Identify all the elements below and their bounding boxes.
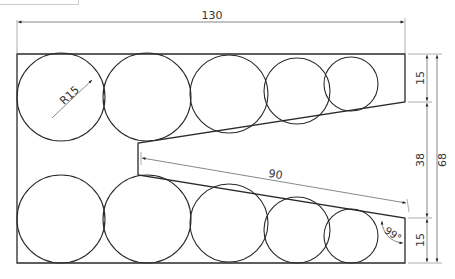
hole-circle: [324, 57, 378, 111]
radius-label: R15: [57, 83, 82, 107]
dimension-90-label: 90: [268, 167, 284, 182]
technical-drawing: 130 15 38 15 68 90 R15 99°: [0, 0, 455, 279]
hole-circle: [190, 184, 268, 262]
hole-circle: [264, 197, 330, 263]
dimension-bottom-15-label: 15: [414, 233, 427, 247]
hole-circle: [324, 209, 378, 263]
hole-circle: [103, 175, 191, 263]
part-outline: [17, 54, 405, 263]
hole-circle: [103, 53, 191, 141]
angle-label: 99°: [383, 225, 404, 244]
dimension-68-label: 68: [436, 153, 449, 167]
dimension-width-label: 130: [202, 9, 223, 22]
hole-circle: [264, 58, 330, 124]
dimension-top-15-label: 15: [414, 71, 427, 85]
dimension-38-label: 38: [414, 153, 427, 167]
hole-circle: [17, 175, 105, 263]
extension-line-notch-end: [407, 199, 409, 212]
hole-circle: [190, 55, 268, 133]
